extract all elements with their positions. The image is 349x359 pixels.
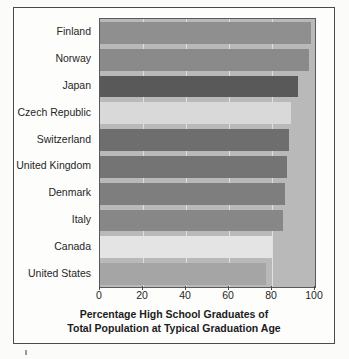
category-label-denmark: Denmark (0, 186, 91, 198)
bar-row (100, 207, 315, 234)
x-axis-title: Percentage High School Graduates of Tota… (13, 307, 335, 335)
category-label-japan: Japan (0, 79, 91, 91)
x-tick-label-20: 20 (136, 289, 148, 301)
bar-czech-republic (100, 102, 291, 124)
bar-row (100, 19, 315, 46)
bar-row (100, 126, 315, 153)
category-label-canada: Canada (0, 240, 91, 252)
category-axis-labels: FinlandNorwayJapanCzech RepublicSwitzerl… (0, 18, 95, 286)
bar-japan (100, 76, 298, 98)
x-tick-mark-60 (228, 286, 229, 290)
bar-united-kingdom (100, 156, 287, 178)
category-label-united-states: United States (0, 267, 91, 279)
x-tick-mark-20 (142, 286, 143, 290)
plot-area (99, 18, 316, 288)
category-label-switzerland: Switzerland (0, 133, 91, 145)
bar-row (100, 260, 315, 287)
category-label-norway: Norway (0, 52, 91, 64)
category-label-italy: Italy (0, 213, 91, 225)
x-tick-mark-0 (99, 286, 100, 290)
x-tick-label-100: 100 (305, 289, 323, 301)
category-label-finland: Finland (0, 25, 91, 37)
bar-norway (100, 49, 309, 71)
x-tick-label-0: 0 (96, 289, 102, 301)
x-tick-mark-100 (314, 286, 315, 290)
x-tick-label-80: 80 (265, 289, 277, 301)
bar-row (100, 180, 315, 207)
category-label-czech-republic: Czech Republic (0, 106, 91, 118)
x-axis-title-line1: Percentage High School Graduates of (13, 307, 335, 321)
x-tick-label-60: 60 (222, 289, 234, 301)
scan-artifact-mark (25, 350, 27, 355)
bar-denmark (100, 183, 285, 205)
bar-switzerland (100, 129, 289, 151)
x-tick-label-40: 40 (179, 289, 191, 301)
bar-row (100, 99, 315, 126)
category-label-united-kingdom: United Kingdom (0, 159, 91, 171)
bar-canada (100, 236, 272, 258)
bar-row (100, 46, 315, 73)
x-axis-title-line2: Total Population at Typical Graduation A… (13, 321, 335, 335)
bar-row (100, 153, 315, 180)
x-tick-mark-80 (271, 286, 272, 290)
bar-row (100, 233, 315, 260)
bar-united-states (100, 263, 266, 285)
bar-chart: FinlandNorwayJapanCzech RepublicSwitzerl… (0, 0, 349, 359)
bar-finland (100, 22, 311, 44)
x-tick-mark-40 (185, 286, 186, 290)
bar-italy (100, 210, 283, 232)
bar-row (100, 73, 315, 100)
